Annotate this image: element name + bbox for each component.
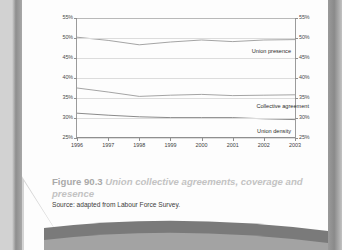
x-axis-tick-2000 xyxy=(202,138,203,141)
bottom-curve-shape xyxy=(44,206,328,250)
y-axis-l-label-30: 30% xyxy=(63,115,74,120)
line-chart: 55%55%50%50%45%45%40%40%35%35%30%30%25%2… xyxy=(50,12,322,164)
y-axis-r-label-55: 55% xyxy=(299,15,310,20)
x-axis-label-1996: 1996 xyxy=(71,143,83,148)
y-axis-r-tick xyxy=(295,18,298,19)
y-axis-r-tick xyxy=(295,38,298,39)
x-axis-label-1998: 1998 xyxy=(133,143,145,148)
page-right-edge xyxy=(328,0,342,250)
y-axis-l-tick xyxy=(74,38,77,39)
figure-caption: Figure 90.3 Union collective agreements,… xyxy=(52,176,304,199)
y-axis-l-tick xyxy=(74,118,77,119)
y-axis-l-label-55: 55% xyxy=(63,15,74,20)
x-axis-tick-1997 xyxy=(108,138,109,141)
y-axis-l-tick xyxy=(74,18,77,19)
y-axis-l-label-45: 45% xyxy=(63,55,74,60)
x-axis-tick-1999 xyxy=(170,138,171,141)
y-axis-l-label-35: 35% xyxy=(63,95,74,100)
x-axis-label-2002: 2002 xyxy=(258,143,270,148)
series-line-collective-agreement xyxy=(77,88,295,96)
x-axis-label-1997: 1997 xyxy=(102,143,114,148)
x-axis-label-2000: 2000 xyxy=(196,143,208,148)
y-axis-r-label-40: 40% xyxy=(299,75,310,80)
y-axis-l-label-50: 50% xyxy=(63,35,74,40)
y-axis-r-tick xyxy=(295,58,298,59)
y-axis-r-tick xyxy=(295,98,298,99)
gridline-45 xyxy=(77,58,295,59)
series-label-union-presence: Union presence xyxy=(252,49,291,55)
page-bottom-shadow xyxy=(44,206,328,250)
gridline-25 xyxy=(77,138,295,139)
x-axis-tick-2001 xyxy=(233,138,234,141)
x-axis-label-2003: 2003 xyxy=(289,143,301,148)
x-axis-label-1999: 1999 xyxy=(164,143,176,148)
plot-area: 55%55%50%50%45%45%40%40%35%35%30%30%25%2… xyxy=(76,18,296,138)
y-axis-r-tick xyxy=(295,78,298,79)
figure-number: Figure 90.3 xyxy=(52,176,103,187)
x-axis-tick-1998 xyxy=(139,138,140,141)
x-axis-label-2001: 2001 xyxy=(227,143,239,148)
gridline-35 xyxy=(77,98,295,99)
page-left-edge xyxy=(0,0,22,250)
y-axis-r-label-45: 45% xyxy=(299,55,310,60)
y-axis-r-label-30: 30% xyxy=(299,115,310,120)
y-axis-r-label-25: 25% xyxy=(299,135,310,140)
y-axis-r-tick xyxy=(295,118,298,119)
y-axis-l-tick xyxy=(74,98,77,99)
series-label-collective-agreement: Collective agreement xyxy=(256,104,309,110)
series-label-union-density: Union density xyxy=(257,129,291,135)
x-axis-line xyxy=(77,137,295,138)
gridline-50 xyxy=(77,38,295,39)
x-axis-tick-2002 xyxy=(264,138,265,141)
x-axis-tick-1996 xyxy=(77,138,78,141)
y-axis-l-tick xyxy=(74,58,77,59)
gridline-55 xyxy=(77,18,295,19)
y-axis-l-label-40: 40% xyxy=(63,75,74,80)
x-axis-tick-2003 xyxy=(295,138,296,141)
book-page: 55%55%50%50%45%45%40%40%35%35%30%30%25%2… xyxy=(22,0,328,250)
y-axis-l-label-25: 25% xyxy=(63,135,74,140)
y-axis-l-tick xyxy=(74,78,77,79)
gridline-30 xyxy=(77,118,295,119)
screenshot-root: 55%55%50%50%45%45%40%40%35%35%30%30%25%2… xyxy=(0,0,342,250)
gridline-40 xyxy=(77,78,295,79)
y-axis-r-label-50: 50% xyxy=(299,35,310,40)
y-axis-r-label-35: 35% xyxy=(299,95,310,100)
